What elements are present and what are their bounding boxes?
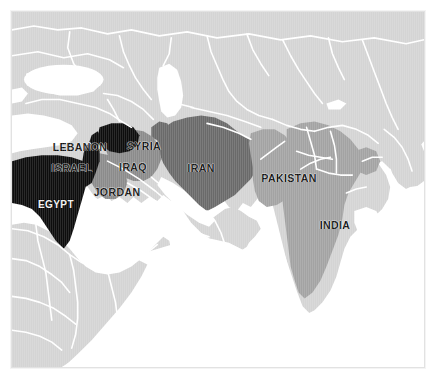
map-frame: LEBANONSYRIAISRAELIRAQJORDANEGYPTIRANPAK… <box>11 11 425 368</box>
map-figure: LEBANONSYRIAISRAELIRAQJORDANEGYPTIRANPAK… <box>0 0 439 383</box>
country-india-northeast <box>352 147 380 175</box>
map-canvas <box>12 12 424 367</box>
